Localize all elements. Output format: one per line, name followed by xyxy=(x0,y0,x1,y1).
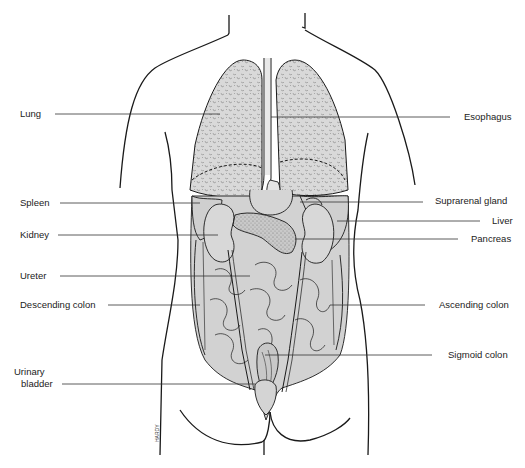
label-bladder: bladder xyxy=(21,378,53,389)
label-suprarenal-gland: Suprarenal gland xyxy=(435,195,507,206)
right-lung xyxy=(276,60,348,196)
urinary-bladder xyxy=(255,380,277,415)
anatomy-diagram xyxy=(0,0,525,468)
left-lung xyxy=(190,60,262,198)
label-ascending-colon: Ascending colon xyxy=(439,299,509,310)
artist-signature: HARDY xyxy=(154,424,160,442)
label-descending-colon: Descending colon xyxy=(20,299,96,310)
label-sigmoid-colon: Sigmoid colon xyxy=(448,349,508,360)
label-lung: Lung xyxy=(20,108,41,119)
label-ureter: Ureter xyxy=(20,270,46,281)
label-urinary: Urinary xyxy=(14,366,45,377)
label-esophagus: Esophagus xyxy=(464,111,512,122)
label-pancreas: Pancreas xyxy=(471,233,511,244)
label-liver: Liver xyxy=(492,215,513,226)
label-spleen: Spleen xyxy=(20,197,50,208)
label-kidney: Kidney xyxy=(20,229,49,240)
right-kidney xyxy=(302,204,334,263)
